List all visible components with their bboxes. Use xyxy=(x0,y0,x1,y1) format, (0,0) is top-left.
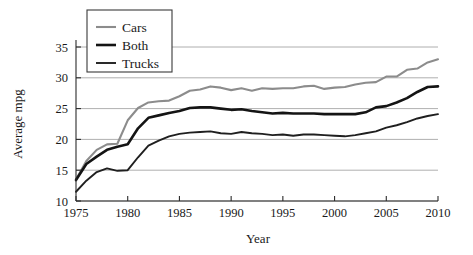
y-axis-title: Average mpg xyxy=(10,89,25,159)
x-tick-group: 19751980198519901995200020052010 xyxy=(64,196,451,220)
legend-label-cars: Cars xyxy=(122,20,147,35)
x-tick-label-2000: 2000 xyxy=(322,206,347,220)
x-tick-label-1990: 1990 xyxy=(219,206,244,220)
legend-label-both: Both xyxy=(122,38,149,53)
x-tick-label-1985: 1985 xyxy=(167,206,192,220)
series-line-cars xyxy=(76,59,438,179)
legend-label-trucks: Trucks xyxy=(122,56,159,71)
series-line-trucks xyxy=(76,114,438,192)
x-tick-label-1995: 1995 xyxy=(270,206,295,220)
y-tick-label-30: 30 xyxy=(56,71,69,85)
x-tick-label-2010: 2010 xyxy=(426,206,451,220)
x-tick-label-2005: 2005 xyxy=(374,206,399,220)
chart-figure: 19751980198519901995200020052010 1015202… xyxy=(0,0,473,255)
x-tick-label-1980: 1980 xyxy=(115,206,140,220)
y-tick-label-35: 35 xyxy=(56,41,69,55)
x-axis-title: Year xyxy=(246,231,271,246)
y-tick-label-25: 25 xyxy=(56,102,69,116)
y-tick-group: 101520253035 xyxy=(56,41,82,209)
series-group xyxy=(76,59,438,191)
y-tick-label-10: 10 xyxy=(56,195,69,209)
y-tick-label-15: 15 xyxy=(56,164,69,178)
y-tick-label-20: 20 xyxy=(56,133,69,147)
chart-legend: CarsBothTrucks xyxy=(87,10,172,72)
line-chart: 19751980198519901995200020052010 1015202… xyxy=(0,0,473,255)
